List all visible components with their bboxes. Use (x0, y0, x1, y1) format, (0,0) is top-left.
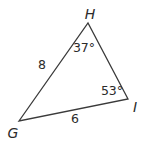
vertex-label-g: G (8, 125, 19, 141)
triangle-figure: H G I 37° 53° 8 6 (0, 0, 149, 147)
side-label-gi: 6 (71, 111, 79, 126)
triangle-diagram: H G I 37° 53° 8 6 (0, 0, 149, 147)
angle-label-i: 53° (101, 83, 123, 98)
vertex-label-h: H (85, 6, 96, 22)
vertex-label-i: I (133, 99, 137, 115)
angle-label-h: 37° (73, 40, 95, 55)
side-label-gh: 8 (38, 57, 46, 72)
triangle-outline (19, 23, 128, 121)
